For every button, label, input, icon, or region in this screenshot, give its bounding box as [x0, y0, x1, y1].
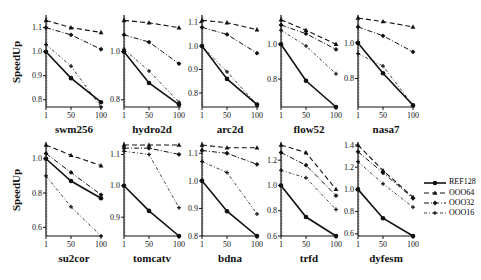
x-tick-label: 1 [279, 111, 283, 120]
y-tick-label: 0.8 [188, 232, 198, 241]
series-OOO16 [356, 160, 415, 210]
panel-nasa7: 0.81.0150100nasa7 [344, 15, 419, 135]
y-tick-label: 1.0 [188, 177, 198, 186]
panel-title: arc2d [217, 123, 244, 135]
y-tick-label: 0.8 [32, 95, 42, 104]
y-tick-label: 0.8 [110, 95, 120, 104]
panel-su2cor: 0.60.81.0150100su2cor [32, 142, 107, 264]
y-tick-label: 1.0 [110, 47, 120, 56]
x-tick-label: 1 [279, 240, 283, 249]
panel-title: su2cor [58, 252, 89, 264]
x-tick-label: 50 [223, 111, 231, 120]
y-tick-label: 1.0 [344, 39, 354, 48]
x-tick-label: 50 [145, 111, 153, 120]
series-OOO32 [200, 148, 260, 167]
x-tick-label: 1 [356, 111, 360, 120]
x-tick-label: 50 [302, 240, 310, 249]
y-axis-label: SpeedUp [10, 41, 22, 83]
x-tick-label: 1 [356, 240, 360, 249]
series-REF128 [122, 183, 182, 238]
series-OOO64 [356, 15, 416, 28]
series-OOO32 [200, 25, 260, 56]
y-tick-label: 0.8 [188, 89, 198, 98]
panel-hydro2d: 0.81.0150100hydro2d [110, 15, 185, 135]
legend-label: OOO64 [449, 188, 474, 197]
y-tick-label: 1.1 [188, 18, 198, 27]
series-REF128 [279, 183, 339, 238]
series-REF128 [279, 42, 339, 109]
y-tick-label: 1.2 [267, 156, 277, 165]
series-OOO16 [122, 149, 181, 209]
series-OOO32 [279, 150, 339, 198]
y-tick-label: 0.6 [32, 223, 42, 232]
series-OOO64 [356, 142, 416, 199]
panel-arc2d: 0.80.91.01.1150100arc2d [188, 15, 263, 135]
series-OOO16 [44, 42, 103, 109]
x-tick-label: 1 [200, 111, 204, 120]
series-OOO32 [44, 25, 104, 51]
x-tick-label: 100 [407, 240, 419, 249]
series-OOO32 [356, 149, 416, 200]
series-OOO16 [279, 28, 338, 76]
panel-title: flow52 [293, 123, 325, 135]
series-OOO64 [200, 18, 260, 32]
panel-title: bdna [218, 252, 242, 264]
x-tick-label: 50 [302, 111, 310, 120]
x-tick-label: 100 [95, 240, 107, 249]
series-REF128 [356, 41, 416, 108]
series-OOO64 [122, 142, 182, 146]
y-tick-label: 1.0 [110, 181, 120, 190]
series-REF128 [122, 49, 182, 107]
x-tick-label: 100 [407, 111, 419, 120]
panel-title: hydro2d [132, 123, 172, 135]
x-tick-label: 100 [330, 240, 342, 249]
panel-flow52: 0.81.0150100flow52 [267, 15, 342, 135]
y-tick-label: 1.0 [32, 154, 42, 163]
y-tick-label: 1.1 [32, 23, 42, 32]
legend-item-ooo64: OOO64 [418, 188, 481, 198]
y-tick-label: 0.8 [267, 75, 277, 84]
y-tick-label: 0.9 [32, 71, 42, 80]
x-tick-label: 50 [145, 240, 153, 249]
series-OOO64 [279, 17, 339, 46]
y-tick-label: 1.1 [188, 149, 198, 158]
x-tick-label: 1 [200, 240, 204, 249]
x-tick-label: 50 [223, 240, 231, 249]
legend-label: REF128 [449, 177, 476, 186]
series-OOO16 [122, 47, 181, 104]
panel-tomcatv: 0.91.01.1150100tomcatv [110, 142, 185, 264]
x-tick-label: 100 [95, 111, 107, 120]
y-tick-label: 0.8 [267, 206, 277, 215]
series-REF128 [200, 179, 260, 239]
x-tick-label: 1 [44, 240, 48, 249]
y-axis-label: SpeedUp [10, 169, 22, 211]
panel-dyfesm: 0.60.81.01.21.4150100dyfesm [344, 141, 419, 264]
speedup-chart-grid: 0.80.91.01.1150100swm2560.81.0150100hydr… [0, 0, 481, 280]
series-REF128 [356, 187, 416, 238]
x-tick-label: 100 [251, 111, 263, 120]
panel-title: trfd [300, 252, 318, 264]
x-tick-label: 100 [173, 240, 185, 249]
panel-title: dyfesm [369, 252, 403, 264]
x-tick-label: 100 [173, 111, 185, 120]
x-tick-label: 1 [122, 111, 126, 120]
series-OOO16 [279, 168, 338, 211]
panel-title: nasa7 [373, 123, 400, 135]
legend-item-ooo32: OOO32 [418, 198, 481, 208]
y-tick-label: 1.0 [344, 185, 354, 194]
y-tick-label: 0.6 [267, 232, 277, 241]
x-tick-label: 50 [379, 240, 387, 249]
series-OOO16 [200, 160, 259, 216]
series-OOO64 [44, 18, 104, 34]
x-tick-label: 1 [44, 111, 48, 120]
series-REF128 [44, 49, 104, 104]
y-tick-label: 1.0 [32, 47, 42, 56]
series-OOO32 [44, 151, 104, 197]
x-tick-label: 50 [379, 111, 387, 120]
x-tick-label: 100 [251, 240, 263, 249]
y-tick-label: 1.2 [344, 163, 354, 172]
series-OOO16 [200, 44, 259, 107]
y-tick-label: 0.6 [344, 229, 354, 238]
panel-title: swm256 [55, 123, 93, 135]
panel-bdna: 0.80.91.01.1150100bdna [188, 142, 263, 264]
